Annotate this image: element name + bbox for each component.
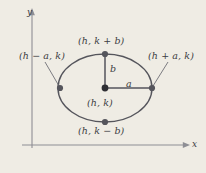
semi-minor-axis-label: b — [110, 64, 116, 74]
top-vertex-marker — [102, 51, 108, 57]
x-axis-label: x — [192, 140, 197, 149]
x-axis-arrowhead — [183, 142, 190, 148]
ellipse-figure: (h, k + b) (h − a, k) (h + a, k) (h, k) … — [0, 0, 206, 173]
left-vertex-marker — [57, 85, 63, 91]
semi-major-axis-label: a — [126, 79, 132, 89]
figure-canvas — [0, 0, 206, 173]
left-vertex-label: (h − a, k) — [19, 51, 65, 61]
right-vertex-marker — [149, 85, 155, 91]
x-axis — [22, 142, 190, 148]
left-vertex-leader-line — [45, 62, 59, 86]
center-point-marker — [102, 85, 109, 92]
right-vertex-leader-line — [153, 62, 168, 86]
right-vertex-label: (h + a, k) — [148, 51, 194, 61]
center-point-label: (h, k) — [87, 98, 113, 108]
y-axis-label: y — [27, 8, 32, 17]
bottom-vertex-label: (h, k − b) — [78, 126, 124, 136]
top-vertex-label: (h, k + b) — [78, 36, 124, 46]
y-axis — [29, 8, 35, 148]
